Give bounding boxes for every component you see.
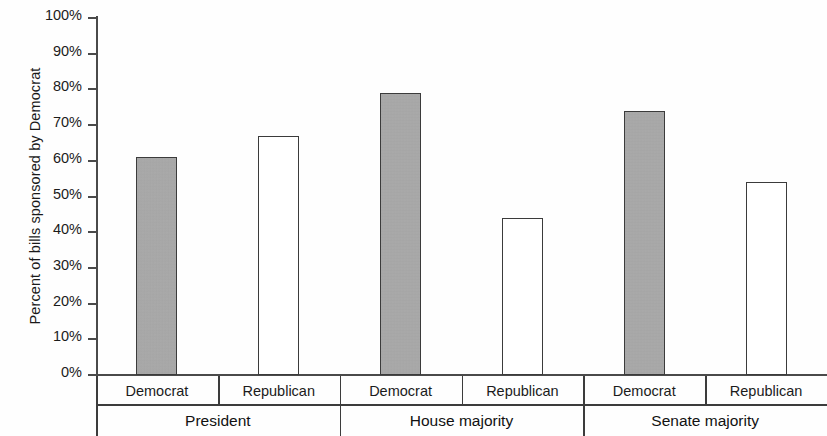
- y-axis-tick-label: 50%: [0, 186, 82, 202]
- bar-senate-majority-republican: [746, 182, 787, 375]
- y-axis-tick-mark: [88, 338, 97, 340]
- group-label: House majority: [340, 405, 584, 436]
- y-axis-tick-label: 40%: [0, 221, 82, 237]
- y-axis-tick-label: 20%: [0, 293, 82, 309]
- y-axis-tick-mark: [88, 267, 97, 269]
- band-left-edge: [96, 376, 98, 436]
- category-label: Democrat: [96, 376, 218, 405]
- y-axis-tick-mark: [88, 53, 97, 55]
- y-axis-tick-mark: [88, 124, 97, 126]
- y-axis-tick-label: 100%: [0, 7, 82, 23]
- bar-senate-majority-democrat: [624, 111, 665, 375]
- bar-president-republican: [258, 136, 299, 375]
- bar-chart: Percent of bills sponsored by Democrat 0…: [0, 0, 827, 436]
- group-label: Senate majority: [583, 405, 827, 436]
- y-axis-tick-mark: [88, 231, 97, 233]
- category-label: Democrat: [583, 376, 705, 405]
- category-cell-separator: [462, 376, 464, 405]
- bar-president-democrat: [136, 157, 177, 375]
- group-separator: [340, 376, 342, 436]
- y-axis-tick-mark: [88, 88, 97, 90]
- y-axis-tick-mark: [88, 196, 97, 198]
- group-label: President: [96, 405, 340, 436]
- y-axis-tick-mark: [88, 17, 97, 19]
- y-axis-tick-label: 0%: [0, 364, 82, 380]
- group-separator: [583, 376, 585, 436]
- y-axis-tick-label: 60%: [0, 150, 82, 166]
- category-cell-separator: [705, 376, 707, 405]
- category-label: Republican: [462, 376, 584, 405]
- y-axis-tick-label: 90%: [0, 43, 82, 59]
- category-cell-separator: [218, 376, 220, 405]
- category-label: Democrat: [340, 376, 462, 405]
- category-label: Republican: [705, 376, 827, 405]
- y-axis-tick-label: 80%: [0, 78, 82, 94]
- y-axis-tick-label: 10%: [0, 328, 82, 344]
- bar-house-majority-democrat: [380, 93, 421, 375]
- y-axis-tick-label: 30%: [0, 257, 82, 273]
- y-axis-tick-mark: [88, 303, 97, 305]
- group-label-band: PresidentHouse majoritySenate majority: [96, 405, 827, 436]
- y-axis-tick-mark: [88, 160, 97, 162]
- y-axis-tick-label: 70%: [0, 114, 82, 130]
- bar-house-majority-republican: [502, 218, 543, 375]
- category-label: Republican: [218, 376, 340, 405]
